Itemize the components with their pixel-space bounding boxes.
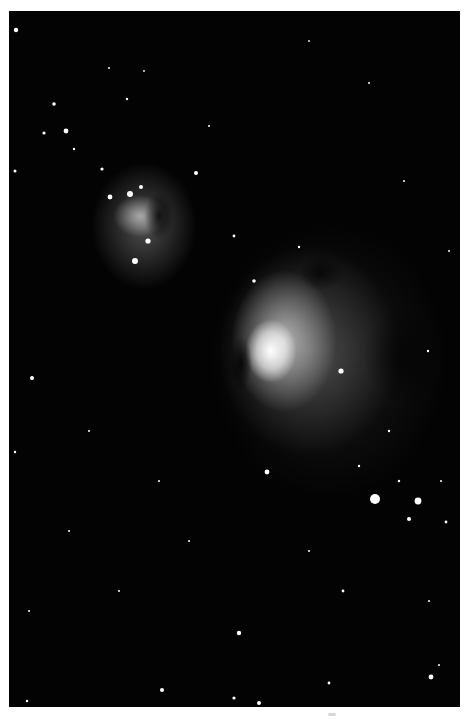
print-mark (328, 713, 336, 716)
star-field (9, 11, 460, 707)
nebula-photo (9, 11, 460, 707)
